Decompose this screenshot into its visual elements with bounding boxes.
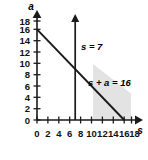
x-tick-label: 8: [78, 128, 83, 139]
x-tick-label: 10: [86, 128, 97, 139]
annotation-s-equals-7: s = 7: [81, 41, 103, 52]
y-tick-label: 0: [25, 115, 30, 126]
graph-figure: a s 18 16 14 12 10 8 6 4 2 0 0 2 4 6 8 1…: [0, 0, 148, 160]
x-tick-label: 6: [67, 128, 72, 139]
y-tick-label: 12: [19, 47, 30, 58]
x-tick-label: 18: [129, 128, 140, 139]
y-tick-label: 4: [25, 92, 31, 103]
coordinate-plane: a s 18 16 14 12 10 8 6 4 2 0 0 2 4 6 8 1…: [0, 0, 148, 160]
x-tick-label: 12: [97, 128, 108, 139]
y-tick-label: 8: [25, 69, 30, 80]
y-axis-arrow: [33, 10, 42, 18]
x-tick-label: 2: [45, 128, 50, 139]
y-axis-title: a: [28, 1, 34, 12]
annotation-s-plus-a-equals-16: s + a = 16: [88, 77, 132, 88]
line-s-equals-7-arrow: [71, 14, 79, 22]
y-tick-label: 2: [25, 103, 30, 114]
x-tick-label: 16: [119, 128, 130, 139]
x-tick-label: 14: [108, 128, 119, 139]
y-tick-label: 14: [19, 35, 30, 46]
x-tick-label: 0: [34, 128, 39, 139]
y-tick-label: 10: [19, 58, 30, 69]
y-tick-label: 16: [19, 24, 30, 35]
y-tick-label: 6: [25, 81, 30, 92]
x-tick-label: 4: [56, 128, 62, 139]
